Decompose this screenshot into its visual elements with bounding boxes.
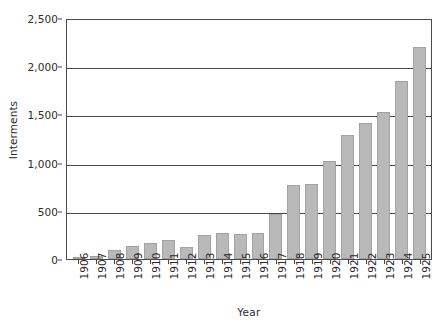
bar-slot [195,20,213,259]
x-axis-tick-slot: 1910 [141,260,159,306]
x-axis-tick-slot: 1907 [87,260,105,306]
y-axis-tick-mark [58,115,62,116]
bar-slot [392,20,410,259]
y-axis-tick-label: 2,000 [27,61,58,73]
x-axis-tick-slot: 1925 [411,260,429,306]
x-axis-tick-slot: 1921 [339,260,357,306]
bar-slot [410,20,428,259]
x-axis-tick-slot: 1918 [285,260,303,306]
x-axis-tick-slot: 1923 [375,260,393,306]
bar-slot [106,20,124,259]
bar-slot [249,20,267,259]
plot-area [66,19,432,260]
bar-slot [321,20,339,259]
y-axis-tick-mark [58,211,62,212]
y-axis-tick-label: 1,000 [27,158,58,170]
bar [413,47,426,259]
x-axis-tick-slot: 1909 [123,260,141,306]
y-axis-tick-label: 0 [51,254,58,266]
bar-slot [70,20,88,259]
y-axis-tick-mark [58,163,62,164]
y-axis-title-text: Interments [7,101,19,159]
y-axis-tick-mark [58,67,62,68]
x-axis-tick-slot: 1920 [321,260,339,306]
bar-slot [357,20,375,259]
bar [305,184,318,259]
bar [287,185,300,259]
y-axis-tick-mark [58,260,62,261]
bar [377,112,390,259]
x-axis-tick-slot: 1911 [159,260,177,306]
bar-slot [88,20,106,259]
x-axis-tick-slot: 1913 [195,260,213,306]
x-axis-tick-slot: 1916 [249,260,267,306]
x-axis-tick-slot: 1908 [105,260,123,306]
x-axis-tick-slot: 1915 [231,260,249,306]
bar-slot [231,20,249,259]
bar-slot [374,20,392,259]
x-axis-tick-label: 1925 [420,252,432,279]
x-axis-tick-slot: 1906 [69,260,87,306]
bar-slot [267,20,285,259]
x-axis-tick-slot: 1924 [393,260,411,306]
x-axis-tick-slot: 1919 [303,260,321,306]
y-axis-title: Interments [2,0,24,260]
y-axis-tick-label: 2,500 [27,13,58,25]
bar-slot [142,20,160,259]
y-axis-tick-label: 500 [38,206,58,218]
bar-slot [124,20,142,259]
x-axis-tick-slot: 1912 [177,260,195,306]
y-axis-tick-mark [58,19,62,20]
x-axis-tick-labels: 1906190719081909191019111912191319141915… [66,260,432,306]
bar-slot [303,20,321,259]
bar-slot [160,20,178,259]
x-axis-tick-slot: 1917 [267,260,285,306]
x-axis-tick-slot: 1922 [357,260,375,306]
bar-slot [285,20,303,259]
y-axis-tick-label: 1,500 [27,109,58,121]
x-axis-tick-slot: 1914 [213,260,231,306]
bar [395,81,408,259]
bar-chart: Interments 05001,0001,5002,0002,500 1906… [0,0,446,328]
bar [341,135,354,259]
bar-series [67,20,431,259]
x-axis-title: Year [66,306,432,318]
y-axis-tick-labels: 05001,0001,5002,0002,500 [22,19,62,260]
bar [359,123,372,259]
bar-slot [177,20,195,259]
bar-slot [339,20,357,259]
bar [323,161,336,259]
bar-slot [213,20,231,259]
